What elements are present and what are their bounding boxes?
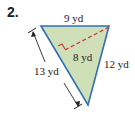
dimension-tick-top — [28, 28, 36, 33]
label-top: 9 yd — [64, 13, 83, 24]
dimension-line-upper — [33, 32, 45, 62]
label-height: 8 yd — [73, 52, 92, 63]
label-left: 13 yd — [34, 66, 59, 77]
arrow-head-up — [31, 31, 36, 37]
label-right: 12 yd — [104, 59, 129, 70]
